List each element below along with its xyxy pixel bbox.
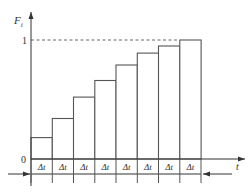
interval-label: Δt xyxy=(58,162,67,172)
x-axis-label: t xyxy=(236,161,239,172)
bar-1 xyxy=(31,138,52,159)
bar-5 xyxy=(116,65,137,159)
bar-3 xyxy=(74,97,95,159)
bars-group xyxy=(31,40,201,159)
interval-label: Δt xyxy=(122,162,131,172)
bar-6 xyxy=(137,53,158,159)
cumulative-step-chart: ΔtΔtΔtΔtΔtΔtΔtΔt Fi 1 0 t xyxy=(0,0,250,196)
y-tick-zero: 0 xyxy=(21,154,26,165)
interval-label: Δt xyxy=(143,162,152,172)
interval-dividers xyxy=(31,159,201,183)
y-tick-one: 1 xyxy=(22,35,27,46)
interval-label: Δt xyxy=(101,162,110,172)
bar-2 xyxy=(52,119,73,160)
interval-label: Δt xyxy=(37,162,46,172)
bar-8 xyxy=(180,40,201,159)
bar-4 xyxy=(95,81,116,160)
interval-label: Δt xyxy=(79,162,88,172)
y-axis-label: Fi xyxy=(13,14,23,29)
interval-label: Δt xyxy=(164,162,173,172)
bar-7 xyxy=(159,46,180,159)
interval-label: Δt xyxy=(186,162,195,172)
